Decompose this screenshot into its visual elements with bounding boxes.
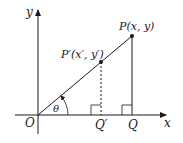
coordinate-diagram: y x O P(x, y) P′(x′, y′) Q Q′ θ bbox=[0, 0, 183, 143]
origin-label: O bbox=[25, 116, 35, 130]
right-angle-marker-q bbox=[122, 105, 132, 115]
point-q-label: Q bbox=[128, 118, 138, 132]
point-q-prime-label: Q′ bbox=[95, 118, 108, 132]
y-axis-label: y bbox=[25, 5, 33, 19]
point-p-label: P(x, y) bbox=[118, 20, 154, 33]
angle-arc-icon bbox=[61, 96, 68, 115]
angle-label: θ bbox=[53, 103, 59, 114]
right-angle-marker-q-prime bbox=[91, 105, 101, 115]
x-axis-label: x bbox=[164, 116, 171, 130]
point-p-prime-label: P′(x′, y′) bbox=[60, 48, 104, 61]
point-p bbox=[130, 34, 134, 38]
